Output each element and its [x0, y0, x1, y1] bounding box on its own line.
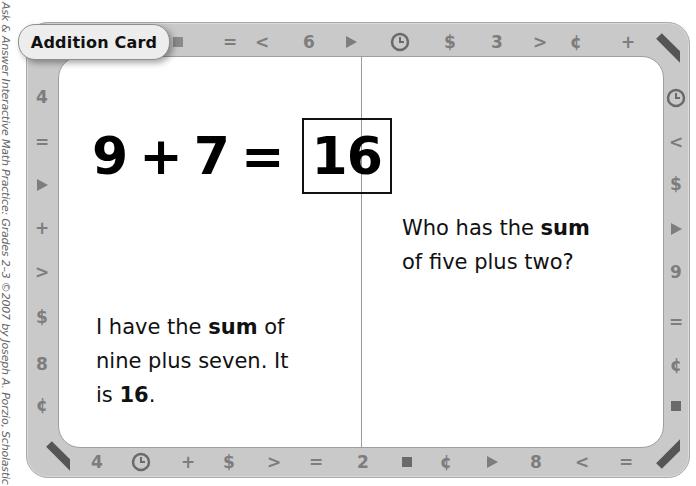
clock-icon [388, 30, 412, 54]
cent-icon: ¢ [564, 30, 588, 54]
question-line: of five plus two? [402, 245, 590, 279]
plus-icon: + [616, 30, 640, 54]
less-than-icon: < [570, 450, 594, 474]
triangle-icon [480, 450, 504, 474]
plus-icon: + [176, 450, 200, 474]
ruler-icon [656, 36, 680, 60]
addend-b: 7 [194, 126, 229, 186]
cent-icon: ¢ [434, 450, 458, 474]
answer-box: 16 [302, 118, 392, 194]
addend-a: 9 [92, 126, 127, 186]
greater-than-icon: > [30, 260, 54, 284]
question-part: Who has the [402, 216, 541, 240]
clock-icon [664, 86, 688, 110]
bold-answer: 16 [119, 383, 148, 407]
ruler-icon [656, 442, 680, 466]
card-divider [361, 57, 362, 447]
square-icon [664, 394, 688, 418]
dollar-icon: $ [217, 450, 241, 474]
digit-icon: 8 [30, 352, 54, 376]
credit-text: Ask & Answer Interactive Math Practice: … [0, 2, 12, 486]
bold-term: sum [208, 315, 257, 339]
dollar-icon: $ [664, 172, 688, 196]
clock-icon [129, 450, 153, 474]
plus-sign: + [139, 126, 182, 186]
dollar-icon: $ [30, 305, 54, 329]
digit-icon: 8 [524, 450, 548, 474]
less-than-icon: < [664, 130, 688, 154]
card-title: Addition Card [18, 24, 170, 60]
statement-part: I have the [96, 315, 208, 339]
digit-icon: 9 [664, 260, 688, 284]
triangle-icon [30, 173, 54, 197]
digit-icon: 2 [351, 450, 375, 474]
cent-icon: ¢ [664, 353, 688, 377]
greater-than-icon: > [528, 30, 552, 54]
equals-icon: = [304, 450, 328, 474]
digit-icon: 6 [297, 30, 321, 54]
equals-sign: = [241, 126, 284, 186]
digit-icon: 4 [30, 85, 54, 109]
statement-part: is [96, 383, 119, 407]
equals-icon: = [664, 310, 688, 334]
square-icon [395, 450, 419, 474]
less-than-icon: < [250, 30, 274, 54]
plus-icon: + [30, 216, 54, 240]
triangle-icon [339, 30, 363, 54]
equals-icon: = [614, 450, 638, 474]
statement-text: I have the sum of nine plus seven. It is… [96, 310, 288, 412]
statement-part: . [149, 383, 156, 407]
equation: 9 + 7 = 16 [92, 118, 392, 194]
digit-icon: 3 [485, 30, 509, 54]
dollar-icon: $ [438, 30, 462, 54]
statement-part: of [258, 315, 285, 339]
equals-icon: = [218, 30, 242, 54]
copyright-credit: Ask & Answer Interactive Math Practice: … [0, 0, 14, 486]
digit-icon: 4 [85, 450, 109, 474]
bold-term: sum [541, 216, 590, 240]
greater-than-icon: > [262, 450, 286, 474]
statement-line: nine plus seven. It [96, 344, 288, 378]
ruler-icon [46, 444, 70, 468]
cent-icon: ¢ [30, 393, 54, 417]
equals-icon: = [30, 130, 54, 154]
triangle-icon [664, 217, 688, 241]
question-text: Who has the sum of five plus two? [402, 211, 590, 279]
